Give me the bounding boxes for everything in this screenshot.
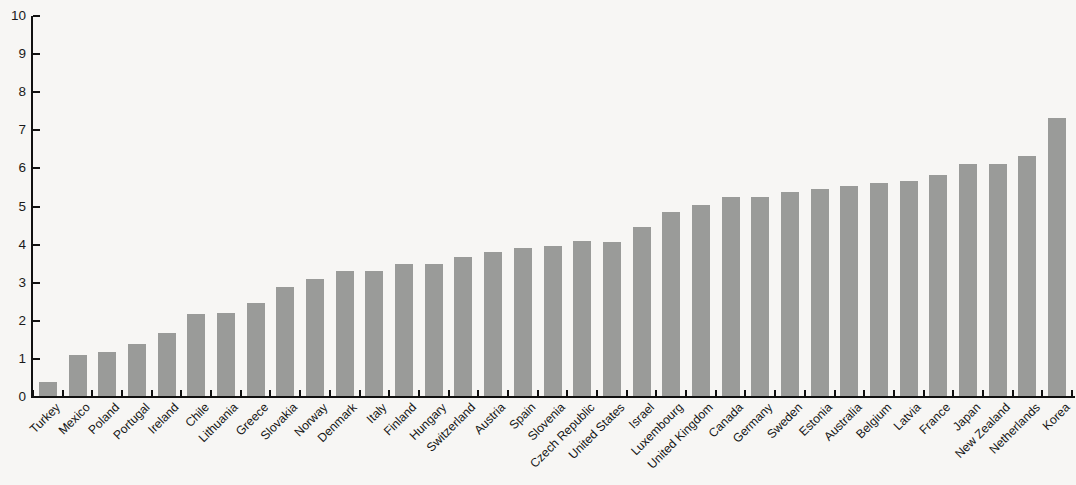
x-axis-tick-mark <box>388 390 390 397</box>
x-axis-tick-mark <box>1012 390 1014 397</box>
x-axis-tick-mark <box>774 390 776 397</box>
x-axis-tick-mark <box>418 390 420 397</box>
x-axis-tick-mark <box>804 390 806 397</box>
x-axis-tick-mark <box>566 390 568 397</box>
x-axis-tick-mark <box>477 390 479 397</box>
x-axis-tick-mark <box>240 390 242 397</box>
x-axis-tick-mark <box>269 390 271 397</box>
x-axis-tick-mark <box>329 390 331 397</box>
x-axis-tick-mark <box>359 390 361 397</box>
x-axis-tick-mark <box>893 390 895 397</box>
x-axis-tick-mark <box>685 390 687 397</box>
x-axis-tick-mark <box>596 390 598 397</box>
x-axis-tick-mark <box>507 390 509 397</box>
x-axis-tick-mark <box>180 390 182 397</box>
x-axis-tick-mark <box>121 390 123 397</box>
x-axis-tick-mark <box>923 390 925 397</box>
x-axis-tick-mark <box>715 390 717 397</box>
x-axis-tick-mark <box>62 390 64 397</box>
x-axis-tick-marks <box>0 0 1076 485</box>
x-axis-tick-mark <box>537 390 539 397</box>
x-axis-tick-mark <box>1041 390 1043 397</box>
x-axis-tick-mark <box>210 390 212 397</box>
x-axis-tick-mark <box>91 390 93 397</box>
x-axis-tick-mark <box>744 390 746 397</box>
x-axis-tick-mark <box>1071 390 1073 397</box>
x-axis-tick-mark <box>655 390 657 397</box>
x-axis-tick-mark <box>299 390 301 397</box>
bar-chart: 012345678910 TurkeyMexicoPolandPortugalI… <box>0 0 1076 485</box>
x-axis-tick-mark <box>448 390 450 397</box>
x-axis-tick-mark <box>834 390 836 397</box>
x-axis-tick-mark <box>626 390 628 397</box>
x-axis-tick-mark <box>32 390 34 397</box>
x-axis-tick-mark <box>982 390 984 397</box>
x-axis-tick-mark <box>863 390 865 397</box>
x-axis-tick-mark <box>952 390 954 397</box>
x-axis-tick-mark <box>151 390 153 397</box>
